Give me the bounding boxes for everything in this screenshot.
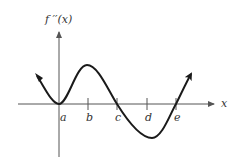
tick-label-a: a <box>60 111 67 124</box>
tick-label-d: d <box>145 111 152 124</box>
tick-label-b: b <box>86 111 93 124</box>
left-arrowhead-icon <box>35 73 43 82</box>
tick-label-e: e <box>174 111 181 124</box>
x-axis-label: x <box>221 97 228 110</box>
f-double-prime-curve <box>37 65 191 138</box>
graph-canvas: f ′′(x) x a b c d e <box>0 0 238 166</box>
y-axis-label: f ′′(x) <box>44 13 72 26</box>
tick-label-c: c <box>115 111 121 124</box>
